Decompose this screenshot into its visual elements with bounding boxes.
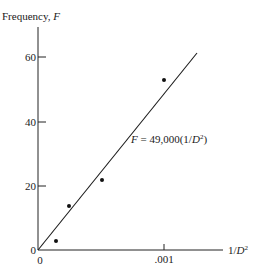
y-tick-label-0: 0 <box>31 244 37 256</box>
data-point <box>162 78 166 82</box>
y-ticks: 60 40 20 0 <box>25 51 46 256</box>
y-tick-label-40: 40 <box>25 116 37 128</box>
chart: Frequency, F 60 40 20 0 0 .001 1/D2 F = … <box>0 0 253 277</box>
y-tick-label-60: 60 <box>25 51 37 63</box>
fit-line <box>38 53 197 250</box>
x-tick-label-001: .001 <box>154 253 173 265</box>
fit-equation-label: F = 49,000(1/D2) <box>130 133 207 146</box>
data-point <box>100 178 104 182</box>
y-axis-title: Frequency, F <box>2 10 60 22</box>
x-tick-label-0: 0 <box>37 254 43 266</box>
data-point <box>54 239 58 243</box>
data-point <box>67 204 71 208</box>
x-ticks: 0 .001 <box>37 244 173 266</box>
y-tick-label-20: 20 <box>25 180 37 192</box>
x-axis-title: 1/D2 <box>228 244 249 256</box>
